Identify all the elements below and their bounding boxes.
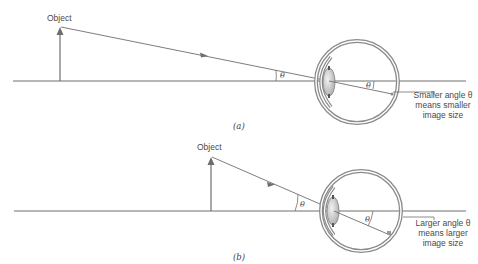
eye-angle-diagram: Object θ θ Smaller angle θ means smaller…: [0, 0, 478, 264]
eye-a: [316, 41, 398, 123]
note-line-2-b: means larger: [418, 228, 468, 238]
light-ray-b: [212, 157, 336, 211]
angle-arc-outside-b: [295, 194, 298, 211]
object-arrow-a: [57, 27, 64, 81]
theta-outside-b: θ: [300, 200, 305, 209]
object-arrow-b: [208, 157, 215, 211]
caption-a: (a): [233, 121, 245, 131]
note-line-2-a: means smaller: [415, 100, 470, 110]
note-line-3-b: image size: [423, 238, 464, 248]
arrowhead-icon: [208, 157, 215, 165]
panel-b: Object θ θ Larger angle θ means larger i…: [14, 142, 471, 262]
note-line-3-a: image size: [423, 110, 464, 120]
theta-inside-a: θ: [366, 81, 371, 90]
angle-arc-inside-a: [373, 81, 374, 89]
panel-a: Object θ θ Smaller angle θ means smaller…: [13, 13, 473, 131]
light-ray-a: [61, 27, 329, 81]
theta-inside-b: θ: [365, 215, 370, 224]
caption-b: (b): [233, 252, 245, 262]
theta-outside-a: θ: [280, 71, 285, 80]
object-label-b: Object: [197, 142, 222, 152]
note-line-1-b: Larger angle θ: [416, 218, 471, 228]
refracted-ray-b: [334, 211, 390, 235]
arrowhead-icon: [57, 27, 64, 35]
refracted-ray-a: [329, 81, 392, 94]
note-line-1-a: Smaller angle θ: [413, 90, 472, 100]
object-label-a: Object: [47, 13, 72, 23]
